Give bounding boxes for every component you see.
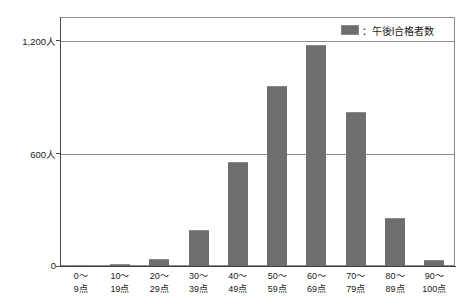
- x-label-line2: 39点: [179, 283, 218, 296]
- bar-80-89[interactable]: [385, 218, 405, 266]
- y-tick-600: 600人: [0, 147, 56, 161]
- bar-70-79[interactable]: [346, 112, 366, 266]
- x-label-line1: 0〜: [61, 270, 100, 283]
- y-tick-mark: [56, 153, 60, 154]
- x-label-line1: 70〜: [336, 270, 375, 283]
- bar-slot: [415, 18, 454, 266]
- legend-label: ：午後I合格者数: [362, 23, 434, 38]
- bar-50-59[interactable]: [267, 86, 287, 266]
- bar-40-49[interactable]: [228, 162, 248, 266]
- bar-slot: [179, 18, 218, 266]
- y-tick-0: 0: [0, 260, 56, 271]
- x-label-0-9: 0〜 9点: [61, 270, 100, 296]
- bar-20-29[interactable]: [149, 259, 169, 266]
- x-label-line2: 29点: [140, 283, 179, 296]
- x-label-line2: 9点: [61, 283, 100, 296]
- bar-slot: [297, 18, 336, 266]
- bar-slot: [336, 18, 375, 266]
- x-label-line2: 89点: [375, 283, 414, 296]
- bar-slot: [140, 18, 179, 266]
- x-label-line1: 80〜: [375, 270, 414, 283]
- x-axis-labels: 0〜 9点 10〜 19点 20〜 29点 30〜 39点 40〜 49点 50…: [61, 270, 454, 306]
- bar-slot: [258, 18, 297, 266]
- bar-slot: [375, 18, 414, 266]
- x-label-50-59: 50〜 59点: [258, 270, 297, 296]
- x-label-line2: 19点: [100, 283, 139, 296]
- x-label-line2: 59点: [258, 283, 297, 296]
- x-label-90-100: 90〜 100点: [415, 270, 454, 296]
- x-label-line1: 40〜: [218, 270, 257, 283]
- x-label-line2: 79点: [336, 283, 375, 296]
- y-tick-mark: [56, 266, 60, 267]
- x-label-40-49: 40〜 49点: [218, 270, 257, 296]
- bars-layer: [61, 18, 454, 266]
- bar-0-9[interactable]: [71, 265, 91, 266]
- x-label-line1: 60〜: [297, 270, 336, 283]
- bar-10-19[interactable]: [110, 264, 130, 266]
- x-label-line2: 49点: [218, 283, 257, 296]
- bar-30-39[interactable]: [189, 230, 209, 266]
- x-label-line1: 50〜: [258, 270, 297, 283]
- x-label-line1: 20〜: [140, 270, 179, 283]
- x-label-80-89: 80〜 89点: [375, 270, 414, 296]
- y-tick-mark: [56, 40, 60, 41]
- y-tick-label: 1,200人: [22, 36, 56, 47]
- bar-slot: [61, 18, 100, 266]
- x-label-line1: 90〜: [415, 270, 454, 283]
- x-label-30-39: 30〜 39点: [179, 270, 218, 296]
- x-label-20-29: 20〜 29点: [140, 270, 179, 296]
- x-label-line2: 100点: [415, 283, 454, 296]
- legend: ：午後I合格者数: [336, 21, 440, 39]
- x-label-70-79: 70〜 79点: [336, 270, 375, 296]
- bar-slot: [100, 18, 139, 266]
- x-label-60-69: 60〜 69点: [297, 270, 336, 296]
- y-tick-label: 600人: [30, 149, 56, 160]
- y-tick-1200: 1,200人: [0, 34, 56, 48]
- x-label-10-19: 10〜 19点: [100, 270, 139, 296]
- bar-slot: [218, 18, 257, 266]
- x-label-line1: 10〜: [100, 270, 139, 283]
- x-axis-line: [60, 266, 456, 267]
- bar-60-69[interactable]: [306, 45, 326, 266]
- x-label-line2: 69点: [297, 283, 336, 296]
- legend-swatch-icon: [341, 25, 359, 35]
- bar-chart: 1,200人 600人 0 0〜 9点 10〜 19点 20〜 29: [0, 0, 472, 308]
- x-label-line1: 30〜: [179, 270, 218, 283]
- bar-90-100[interactable]: [424, 260, 444, 266]
